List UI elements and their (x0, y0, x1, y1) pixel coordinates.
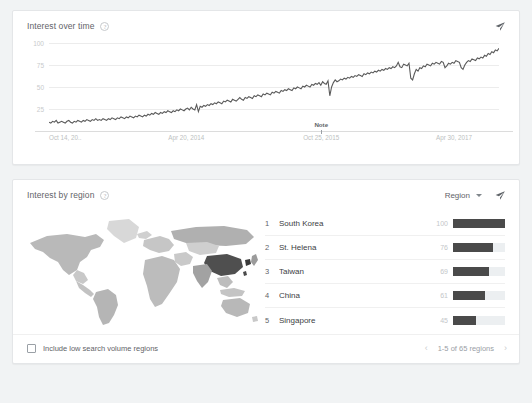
table-row[interactable]: 3 Taiwan 69 (265, 260, 505, 284)
help-circle-icon[interactable]: ? (100, 191, 109, 200)
region-footer: Include low search volume regions ‹ 1-5 … (13, 334, 519, 361)
rank-number: 2 (265, 243, 279, 252)
region-name: South Korea (279, 219, 430, 228)
interest-over-time-header: Interest over time ? (13, 11, 519, 41)
value-bar (453, 316, 505, 325)
y-axis-tick: 25 (37, 106, 44, 113)
table-row[interactable]: 5 Singapore 45 (265, 308, 505, 332)
x-axis-labels: Note Oct 14, 20.. Apr 20, 2014 Oct 25, 2… (49, 131, 499, 145)
chevron-left-icon[interactable]: ‹ (425, 344, 428, 353)
world-map[interactable] (17, 210, 265, 334)
x-axis-tick: Apr 20, 2014 (168, 134, 204, 141)
interest-by-region-header: Interest by region ? Region (13, 180, 519, 210)
region-dropdown[interactable]: Region (445, 191, 482, 200)
rank-number: 5 (265, 316, 279, 325)
region-name: St. Helena (279, 243, 430, 252)
share-icon[interactable] (494, 20, 507, 33)
header-actions-region: Region (445, 189, 507, 202)
region-name: China (279, 291, 430, 300)
page-title: Interest over time (27, 21, 94, 31)
interest-by-region-card: Interest by region ? Region (12, 179, 520, 364)
include-low-volume-checkbox[interactable]: Include low search volume regions (27, 344, 158, 353)
region-dropdown-label: Region (445, 191, 470, 200)
region-body: 1 South Korea 100 2 St. Helena 76 3 Taiw… (13, 210, 519, 334)
pagination-label: 1-5 of 65 regions (438, 344, 494, 353)
rank-number: 1 (265, 219, 279, 228)
rank-number: 4 (265, 291, 279, 300)
y-axis-tick: 100 (33, 40, 44, 47)
share-icon[interactable] (494, 189, 507, 202)
header-actions-time (494, 20, 507, 33)
checkbox-label: Include low search volume regions (43, 344, 158, 353)
region-value: 69 (430, 268, 448, 275)
chevron-down-icon (476, 194, 482, 197)
x-axis-tick: Oct 14, 20.. (49, 134, 82, 141)
time-chart-plot[interactable]: 100 75 50 25 (49, 43, 499, 131)
region-value: 76 (430, 244, 448, 251)
table-row[interactable]: 1 South Korea 100 (265, 212, 505, 236)
table-row[interactable]: 2 St. Helena 76 (265, 236, 505, 260)
rank-number: 3 (265, 267, 279, 276)
trends-page: Interest over time ? 100 75 50 25 (0, 0, 532, 403)
x-axis-tick: Apr 30, 2017 (436, 134, 472, 141)
section-title: Interest by region (27, 190, 94, 200)
value-bar (453, 219, 505, 228)
region-name: Taiwan (279, 267, 430, 276)
checkbox-icon[interactable] (27, 344, 36, 353)
pagination: ‹ 1-5 of 65 regions › (425, 344, 507, 353)
region-value: 45 (430, 317, 448, 324)
trend-line (49, 43, 499, 131)
region-value: 61 (430, 292, 448, 299)
world-map-svg (21, 214, 261, 330)
time-chart: 100 75 50 25 Note Oct 14, 20.. Apr 20, 2… (13, 41, 519, 159)
interest-over-time-card: Interest over time ? 100 75 50 25 (12, 10, 520, 165)
region-value: 100 (430, 220, 448, 227)
x-axis-tick: Oct 25, 2015 (303, 134, 339, 141)
value-bar (453, 291, 505, 300)
region-rank-list: 1 South Korea 100 2 St. Helena 76 3 Taiw… (265, 210, 515, 334)
help-circle-icon[interactable]: ? (100, 22, 109, 31)
note-annotation[interactable]: Note (314, 121, 328, 128)
value-bar (453, 267, 505, 276)
y-axis-tick: 75 (37, 62, 44, 69)
chevron-right-icon[interactable]: › (504, 344, 507, 353)
value-bar (453, 243, 505, 252)
y-axis-tick: 50 (37, 84, 44, 91)
table-row[interactable]: 4 China 61 (265, 284, 505, 308)
region-name: Singapore (279, 316, 430, 325)
